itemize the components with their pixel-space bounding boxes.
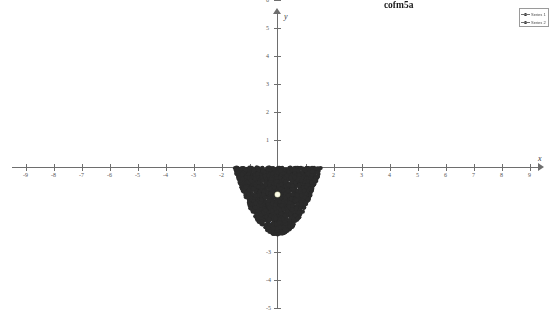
y-tick	[274, 224, 281, 225]
y-tick	[274, 84, 281, 85]
x-tick	[334, 164, 335, 171]
x-tick-label: -8	[51, 172, 56, 178]
x-tick	[54, 164, 55, 171]
x-tick-label: 4	[388, 172, 391, 178]
x-axis-label: x	[538, 154, 542, 163]
y-tick-label: -3	[266, 249, 271, 255]
x-tick	[26, 164, 27, 171]
x-tick-label: 9	[528, 172, 531, 178]
y-tick-label: -1	[266, 193, 271, 199]
y-tick	[274, 112, 281, 113]
x-tick	[306, 164, 307, 171]
legend-box[interactable]: Series 1 Series 2	[519, 8, 549, 27]
y-tick-label: 2	[266, 109, 269, 115]
legend-item-series-2[interactable]: Series 2	[521, 18, 547, 26]
legend-swatch-icon	[521, 12, 530, 17]
y-tick	[274, 252, 281, 253]
x-tick	[82, 164, 83, 171]
y-tick	[274, 28, 281, 29]
chart-title: cofm5a	[384, 0, 414, 10]
y-tick	[274, 280, 281, 281]
x-tick-label: -2	[219, 172, 224, 178]
x-tick	[110, 164, 111, 171]
x-tick-label: 8	[500, 172, 503, 178]
x-axis-arrow-icon	[538, 163, 544, 171]
x-tick	[362, 164, 363, 171]
x-tick	[418, 164, 419, 171]
y-tick-label: -2	[266, 221, 271, 227]
y-tick	[274, 0, 281, 1]
y-tick-label: 6	[266, 0, 269, 3]
legend-swatch-icon	[521, 20, 530, 25]
x-tick	[446, 164, 447, 171]
x-tick-label: -3	[191, 172, 196, 178]
legend-item-series-1[interactable]: Series 1	[521, 10, 547, 18]
chart-canvas: y x -9-8-7-6-5-4-3-2-1123456789-5-4-3-2-…	[0, 0, 556, 323]
legend-label: Series 2	[531, 20, 546, 25]
x-tick-label: -4	[163, 172, 168, 178]
y-axis-label: y	[284, 12, 288, 21]
x-tick	[474, 164, 475, 171]
y-axis-arrow-icon	[273, 8, 281, 14]
x-tick-label: 2	[332, 172, 335, 178]
x-tick-label: 7	[472, 172, 475, 178]
x-axis-line	[12, 167, 540, 168]
legend-marker-icon	[524, 13, 527, 16]
x-tick	[250, 164, 251, 171]
x-tick	[166, 164, 167, 171]
x-tick-label: 5	[416, 172, 419, 178]
y-tick	[274, 140, 281, 141]
y-tick-label: 4	[266, 53, 269, 59]
x-tick	[502, 164, 503, 171]
x-tick-label: -7	[79, 172, 84, 178]
y-tick	[274, 56, 281, 57]
y-tick-label: 5	[266, 25, 269, 31]
legend-marker-icon	[524, 21, 527, 24]
x-tick	[530, 164, 531, 171]
y-tick-label: -4	[266, 277, 271, 283]
x-tick-label: -9	[23, 172, 28, 178]
y-tick-label: 1	[266, 137, 269, 143]
y-tick-label: 3	[266, 81, 269, 87]
x-tick	[222, 164, 223, 171]
x-tick-label: 1	[304, 172, 307, 178]
y-tick-label: -5	[266, 305, 271, 311]
x-tick-label: 6	[444, 172, 447, 178]
x-tick	[138, 164, 139, 171]
x-tick-label: -1	[247, 172, 252, 178]
scatter-point-cloud	[0, 0, 556, 323]
x-tick	[390, 164, 391, 171]
x-tick	[194, 164, 195, 171]
x-tick-label: -5	[135, 172, 140, 178]
legend-label: Series 1	[531, 12, 546, 17]
y-tick	[274, 308, 281, 309]
center-of-mass-dot	[275, 192, 280, 197]
x-tick-label: -6	[107, 172, 112, 178]
x-tick-label: 3	[360, 172, 363, 178]
